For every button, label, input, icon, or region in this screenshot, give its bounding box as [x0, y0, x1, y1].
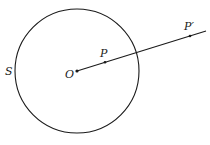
- inversion-diagram: S O P P′: [0, 0, 210, 145]
- point-o-dot: [75, 69, 78, 72]
- point-p-dot: [104, 61, 107, 64]
- diagram-canvas: S O P P′: [0, 0, 210, 145]
- point-p-prime-dot: [189, 35, 192, 38]
- label-o: O: [65, 68, 74, 81]
- label-p: P: [99, 47, 108, 60]
- ray-o-p: [77, 31, 206, 71]
- label-s: S: [5, 65, 13, 78]
- label-p-prime: P′: [183, 20, 194, 33]
